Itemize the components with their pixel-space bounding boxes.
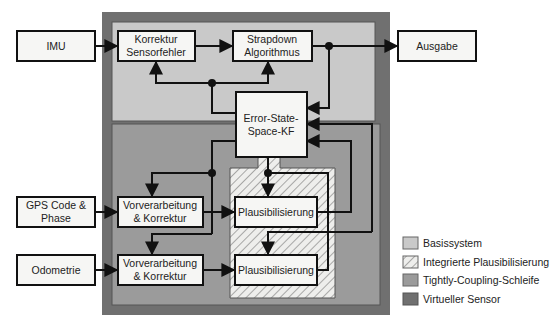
odometrie-label: Odometrie	[31, 264, 80, 276]
legend-swatch-basissystem	[403, 237, 418, 249]
imu-label: IMU	[46, 40, 65, 52]
vorverarbeitung-odo-label-1: Vorverarbeitung	[123, 257, 197, 269]
gps-label-1: GPS Code &	[26, 199, 86, 211]
kf-label-1: Error-State-	[244, 112, 299, 124]
vorverarbeitung-odo-label-2: & Korrektur	[133, 270, 187, 282]
korrektur-label-2: Sensorfehler	[126, 46, 186, 58]
korrektur-sensorfehler-block: Korrektur Sensorfehler	[118, 31, 195, 61]
imu-block: IMU	[17, 31, 95, 61]
legend-label-basissystem: Basissystem	[423, 237, 482, 249]
gps-label-2: Phase	[41, 212, 71, 224]
legend-swatch-virtual-sensor	[403, 293, 418, 305]
error-state-kf-block: Error-State- Space-KF	[236, 92, 307, 157]
strapdown-label-1: Strapdown	[247, 33, 297, 45]
ausgabe-block: Ausgabe	[398, 31, 476, 61]
legend-swatch-hatch	[403, 256, 418, 268]
vorverarbeitung-gps-block: Vorverarbeitung & Korrektur	[118, 197, 203, 227]
plaus-gps-label: Plausibilisierung	[238, 206, 314, 218]
legend-label-tightly-coupling: Tightly-Coupling-Schleife	[423, 274, 539, 286]
ausgabe-label: Ausgabe	[416, 40, 458, 52]
odometrie-block: Odometrie	[17, 255, 95, 285]
legend-label-virtual-sensor: Virtueller Sensor	[423, 293, 501, 305]
system-block-diagram: IMU Korrektur Sensorfehler Strapdown Alg…	[0, 0, 557, 326]
strapdown-block: Strapdown Algorithmus	[233, 31, 312, 61]
vorverarbeitung-gps-label-2: & Korrektur	[133, 212, 187, 224]
korrektur-label-1: Korrektur	[134, 33, 178, 45]
plausibilisierung-gps-block: Plausibilisierung	[235, 197, 317, 227]
strapdown-label-2: Algorithmus	[244, 46, 299, 58]
vorverarbeitung-gps-label-1: Vorverarbeitung	[123, 199, 197, 211]
plaus-odo-label: Plausibilisierung	[238, 264, 314, 276]
legend-label-plausibilisierung: Integrierte Plausibilisierung	[423, 256, 549, 268]
vorverarbeitung-odo-block: Vorverarbeitung & Korrektur	[118, 255, 203, 285]
kf-label-2: Space-KF	[248, 125, 295, 137]
legend-swatch-tightly-coupling	[403, 274, 418, 286]
legend: Basissystem Integrierte Plausibilisierun…	[403, 237, 549, 305]
plausibilisierung-odo-block: Plausibilisierung	[235, 255, 317, 285]
gps-block: GPS Code & Phase	[17, 197, 95, 227]
